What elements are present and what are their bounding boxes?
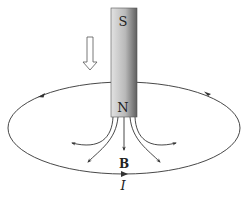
south-pole-label: S xyxy=(119,14,128,29)
bar-magnet: S N xyxy=(111,8,137,117)
induction-diagram: S N B I xyxy=(0,0,248,198)
field-lines xyxy=(72,117,176,162)
north-pole-label: N xyxy=(117,100,128,115)
field-line-inner-right xyxy=(130,117,160,162)
field-line-outer-left xyxy=(72,117,113,145)
motion-down-arrow-icon xyxy=(83,37,97,70)
loop-arrow-top-left-icon xyxy=(38,93,45,98)
field-line-inner-left xyxy=(88,117,118,162)
loop-arrow-bottom-icon xyxy=(121,171,128,177)
current-label-i: I xyxy=(119,178,126,193)
field-label-b: B xyxy=(119,157,129,171)
field-line-outer-right xyxy=(135,117,176,145)
